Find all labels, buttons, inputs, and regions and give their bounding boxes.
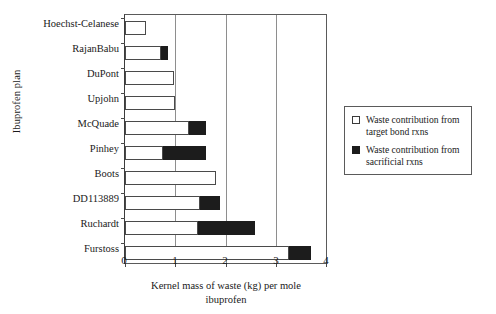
y-tick-mark <box>121 18 125 19</box>
bar-segment-target-bond <box>125 146 163 160</box>
x-axis-title-line1: Kernel mass of waste (kg) per mole <box>118 279 334 293</box>
y-tick-label: Boots <box>14 168 119 180</box>
bar-segment-sacrificial <box>289 246 311 260</box>
y-tick-label: DD113889 <box>14 193 119 205</box>
y-axis-category-labels: Hoechst-Celanese RajanBabu DuPont Upjohn… <box>14 14 119 264</box>
legend-label-line2: target bond rxns <box>366 126 428 137</box>
bar-segment-sacrificial <box>198 221 254 235</box>
y-tick-mark <box>121 143 125 144</box>
bar-segment-target-bond <box>125 96 175 110</box>
black-square-icon <box>352 146 360 154</box>
y-tick-label: Pinhey <box>14 143 119 155</box>
x-axis-title-line2: ibuprofen <box>118 293 334 307</box>
legend-item-sacrificial: Waste contribution from sacrificial rxns <box>351 144 464 167</box>
y-tick-mark <box>121 193 125 194</box>
legend-label-line1: Waste contribution from <box>366 144 460 155</box>
y-tick-mark <box>121 118 125 119</box>
y-tick-mark <box>121 68 125 69</box>
bar-segment-target-bond <box>125 46 161 60</box>
x-tick-label: 3 <box>261 254 291 266</box>
x-axis-title: Kernel mass of waste (kg) per mole ibupr… <box>118 279 334 307</box>
y-tick-label: DuPont <box>14 68 119 80</box>
y-tick-mark <box>121 218 125 219</box>
legend-label: Waste contribution from target bond rxns <box>366 114 460 137</box>
y-tick-label: Hoechst-Celanese <box>14 18 119 30</box>
y-tick-mark <box>121 243 125 244</box>
bar-segment-target-bond <box>125 171 216 185</box>
legend-item-target-bond: Waste contribution from target bond rxns <box>351 114 464 137</box>
bar-segment-target-bond <box>125 121 189 135</box>
y-tick-mark <box>121 168 125 169</box>
x-tick-label: 4 <box>311 254 341 266</box>
legend-label-line1: Waste contribution from <box>366 114 460 125</box>
x-tick-label: 0 <box>109 254 139 266</box>
white-square-icon <box>352 116 360 124</box>
bar-segment-sacrificial <box>200 196 220 210</box>
x-tick-label: 1 <box>160 254 190 266</box>
y-tick-label: Furstoss <box>14 243 119 255</box>
y-tick-mark <box>121 43 125 44</box>
x-tick-label: 2 <box>210 254 240 266</box>
legend-label-line2: sacrificial rxns <box>366 156 423 167</box>
bar-chart-figure: Ibuprofen plan Hoechst-Celanese RajanBab… <box>0 0 496 314</box>
y-tick-label: Upjohn <box>14 93 119 105</box>
y-tick-label: RajanBabu <box>14 43 119 55</box>
bar-segment-sacrificial <box>161 46 168 60</box>
chart-legend: Waste contribution from target bond rxns… <box>344 106 472 175</box>
bar-segment-target-bond <box>125 21 146 35</box>
bar-segment-target-bond <box>125 221 198 235</box>
bar-segment-target-bond <box>125 71 174 85</box>
y-tick-mark <box>121 93 125 94</box>
plot-area <box>124 14 327 264</box>
bar-segment-sacrificial <box>189 121 206 135</box>
legend-label: Waste contribution from sacrificial rxns <box>366 144 460 167</box>
bar-segment-target-bond <box>125 196 200 210</box>
bar-segment-sacrificial <box>163 146 207 160</box>
gridline-3 <box>276 15 277 263</box>
y-tick-label: Ruchardt <box>14 218 119 230</box>
y-tick-label: McQuade <box>14 118 119 130</box>
